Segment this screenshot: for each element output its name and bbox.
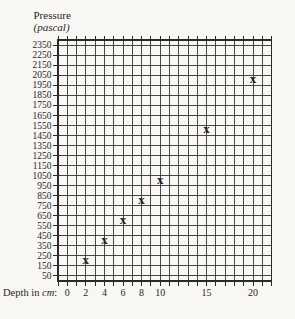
x-tick-label: 0: [65, 287, 70, 298]
y-tick-label: 2250: [33, 50, 52, 60]
x-axis-label-prefix: Depth in: [3, 287, 42, 298]
y-tick-label: 1950: [33, 80, 52, 90]
data-point-marker: x: [250, 71, 257, 86]
data-point-marker: x: [120, 212, 127, 227]
y-tick-label: 850: [37, 191, 52, 201]
y-tick-label: 1450: [33, 131, 52, 141]
x-tick-label: 4: [102, 287, 107, 298]
y-tick-label: 1050: [33, 171, 52, 181]
y-tick-label: 2150: [33, 60, 52, 70]
x-axis-label-unit: cm: [42, 287, 55, 298]
y-tick-label: 150: [37, 261, 52, 271]
plot-border: [58, 40, 272, 281]
y-tick-label: 2350: [33, 40, 52, 50]
x-tick-label: 20: [248, 287, 258, 298]
y-axis-title: Pressure: [34, 9, 71, 21]
y-tick-label: 1550: [33, 121, 52, 131]
chart-canvas: 2350225021502050195018501750165015501450…: [0, 0, 295, 319]
y-tick-label: 650: [37, 211, 52, 221]
y-tick-label: 350: [37, 241, 52, 251]
y-tick-label: 1650: [33, 111, 52, 121]
pressure-depth-figure: 2350225021502050195018501750165015501450…: [0, 0, 295, 319]
y-tick-label: 950: [37, 181, 52, 191]
x-tick-label: 10: [155, 287, 165, 298]
x-tick-label: 8: [139, 287, 144, 298]
data-point-marker: x: [203, 121, 210, 136]
y-tick-label: 250: [37, 251, 52, 261]
y-tick-label: 2050: [33, 70, 52, 80]
data-point-marker: x: [101, 232, 108, 247]
y-tick-label: 550: [37, 221, 52, 231]
data-point-marker: x: [83, 252, 90, 267]
tick-label-layer: 2350225021502050195018501750165015501450…: [33, 40, 259, 297]
data-point-marker: x: [138, 192, 145, 207]
x-tick-label: 15: [202, 287, 212, 298]
y-tick-label: 1350: [33, 141, 52, 151]
y-tick-label: 1250: [33, 151, 52, 161]
y-tick-label: 1850: [33, 90, 52, 100]
x-axis-label-colon: :: [54, 287, 57, 298]
x-tick-label: 6: [121, 287, 126, 298]
y-tick-label: 450: [37, 231, 52, 241]
data-point-marker: x: [157, 172, 164, 187]
y-tick-label: 750: [37, 201, 52, 211]
y-tick-label: 1150: [33, 161, 52, 171]
y-tick-label: 50: [42, 271, 52, 281]
y-axis-unit: (pascal): [34, 21, 70, 34]
x-tick-label: 2: [83, 287, 88, 298]
x-axis-label: Depth in cm:: [3, 287, 57, 298]
grid-layer: [58, 40, 272, 281]
y-tick-label: 1750: [33, 100, 52, 110]
